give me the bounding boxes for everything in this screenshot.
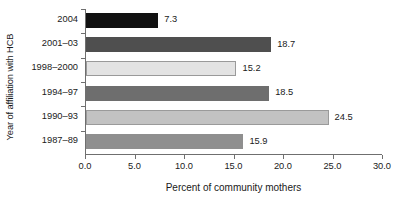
x-axis-tick-label: 30.0 <box>373 161 391 172</box>
x-axis-tick-label: 5.0 <box>128 161 141 172</box>
y-axis-tick <box>81 82 85 83</box>
bar-value-label: 7.3 <box>164 14 177 25</box>
bar-value-label: 15.2 <box>242 63 260 74</box>
x-axis-title: Percent of community mothers <box>85 182 382 194</box>
y-axis-tick <box>81 9 85 10</box>
y-axis-tick-label: 1994–97 <box>42 87 78 98</box>
bar-row: 1994–9718.5 <box>85 82 382 106</box>
x-axis-tick-label: 10.0 <box>175 161 193 172</box>
y-axis-title: Year of affiliation with HCB <box>3 7 17 167</box>
bar-row: 1990–9324.5 <box>85 106 382 130</box>
bar-row: 1998–200015.2 <box>85 58 382 82</box>
x-axis-tick <box>333 155 334 159</box>
x-axis-tick <box>184 155 185 159</box>
x-axis-tick <box>382 155 383 159</box>
bar <box>86 13 158 28</box>
plot-area: 20047.32001–0318.71998–200015.21994–9718… <box>85 9 382 155</box>
x-axis-tick-label: 25.0 <box>323 161 341 172</box>
x-axis-tick <box>283 155 284 159</box>
x-axis-tick <box>85 155 86 159</box>
bar <box>86 110 329 125</box>
bar-value-label: 15.9 <box>249 136 267 147</box>
y-axis-tick-label: 1998–2000 <box>31 62 78 73</box>
y-axis-tick <box>81 33 85 34</box>
y-axis-tick <box>81 58 85 59</box>
bar-value-label: 18.7 <box>277 39 295 50</box>
bar-row: 20047.3 <box>85 9 382 33</box>
bar <box>86 86 269 101</box>
x-axis-tick <box>135 155 136 159</box>
y-axis-tick <box>81 106 85 107</box>
y-axis-tick-label: 2004 <box>57 14 78 25</box>
x-axis-tick-label: 0.0 <box>79 161 92 172</box>
x-axis-tick-label: 15.0 <box>224 161 242 172</box>
bar <box>86 134 243 149</box>
bar-value-label: 24.5 <box>335 112 353 123</box>
bar <box>86 37 271 52</box>
y-axis-tick-label: 1987–89 <box>42 135 78 146</box>
bar-row: 1987–8915.9 <box>85 131 382 155</box>
bar-chart: Year of affiliation with HCB 20047.32001… <box>0 0 402 215</box>
y-axis-tick-label: 2001–03 <box>42 38 78 49</box>
x-axis-tick-label: 20.0 <box>274 161 292 172</box>
bar-value-label: 18.5 <box>275 87 293 98</box>
y-axis-tick <box>81 131 85 132</box>
x-axis-tick <box>234 155 235 159</box>
bar-row: 2001–0318.7 <box>85 33 382 57</box>
y-axis-tick-label: 1990–93 <box>42 111 78 122</box>
bar <box>86 61 236 76</box>
